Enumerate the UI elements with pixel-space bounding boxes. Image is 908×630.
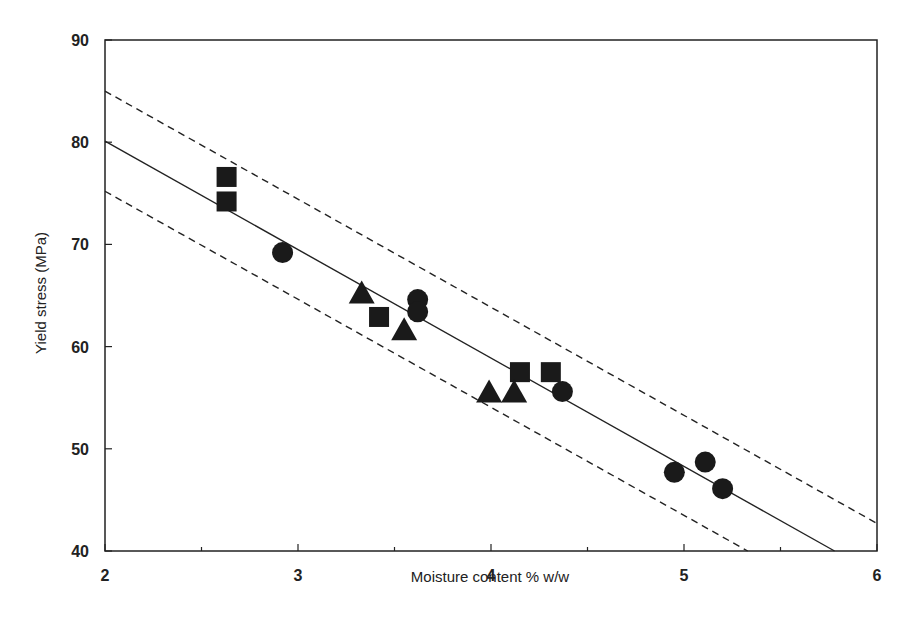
square-marker xyxy=(369,307,389,327)
triangle-marker xyxy=(501,380,527,403)
triangle-marker xyxy=(476,380,502,403)
scatter-chart: 23456 405060708090 xyxy=(0,0,908,630)
square-marker xyxy=(541,362,561,382)
y-tick-label: 80 xyxy=(71,134,89,151)
y-tick-label: 50 xyxy=(71,441,89,458)
upper-bound-line xyxy=(105,91,877,523)
circle-marker xyxy=(695,452,716,473)
circle-marker xyxy=(552,381,573,402)
y-axis-ticks: 405060708090 xyxy=(71,32,112,560)
y-tick-label: 90 xyxy=(71,32,89,49)
fit-lines xyxy=(105,91,877,551)
x-tick-label: 2 xyxy=(101,567,110,584)
circle-marker xyxy=(712,478,733,499)
circle-marker xyxy=(407,301,428,322)
y-tick-label: 40 xyxy=(71,543,89,560)
circle-marker xyxy=(664,462,685,483)
square-marker xyxy=(510,362,530,382)
y-axis-label: Yield stress (MPa) xyxy=(32,232,49,354)
square-marker xyxy=(217,167,237,187)
triangle-marker xyxy=(349,280,375,303)
y-tick-label: 60 xyxy=(71,339,89,356)
x-tick-label: 3 xyxy=(294,567,303,584)
x-tick-label: 5 xyxy=(680,567,689,584)
x-axis-label: Moisture content % w/w xyxy=(411,568,569,585)
circle-marker xyxy=(272,242,293,263)
data-points xyxy=(217,167,734,499)
x-tick-label: 6 xyxy=(873,567,882,584)
lower-bound-line xyxy=(105,191,748,551)
square-marker xyxy=(217,191,237,211)
plot-frame xyxy=(105,40,877,551)
y-tick-label: 70 xyxy=(71,236,89,253)
